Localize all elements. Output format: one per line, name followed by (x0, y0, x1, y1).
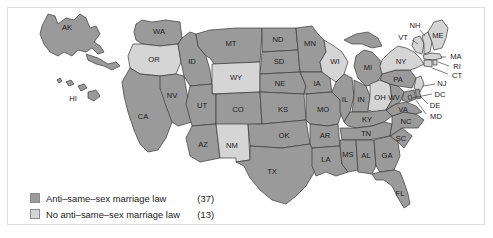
state-label-NV: NV (167, 91, 178, 100)
state-label-ID: ID (188, 57, 196, 66)
state-VT[interactable] (412, 36, 424, 54)
state-RI[interactable] (433, 60, 437, 65)
state-label-CO: CO (232, 105, 243, 114)
state-label-SD: SD (274, 57, 285, 66)
state-label-RI: RI (453, 62, 461, 71)
state-label-AL: AL (361, 151, 370, 160)
state-label-CT: CT (452, 71, 462, 80)
state-label-MO: MO (317, 105, 329, 114)
state-KS[interactable]: KS (260, 92, 306, 124)
state-label-LA: LA (321, 155, 331, 164)
state-label-VA: VA (398, 105, 409, 114)
state-label-NE: NE (275, 79, 286, 88)
state-label-TN: TN (361, 129, 371, 138)
state-CT[interactable] (424, 60, 432, 67)
state-MO[interactable]: MO (306, 92, 342, 126)
state-label-MI: MI (364, 63, 372, 72)
state-label-KY: KY (362, 115, 372, 124)
state-OK[interactable]: OK (248, 120, 310, 148)
state-label-OK: OK (279, 131, 290, 140)
state-label-AK: AK (62, 23, 72, 32)
state-AR[interactable]: AR (310, 124, 340, 148)
state-label-HI: HI (69, 94, 77, 103)
state-label-OR: OR (148, 55, 160, 64)
legend-item-no-anti[interactable]: No anti–same–sex marriage law (13) (30, 206, 214, 222)
state-AK[interactable]: AK (40, 14, 120, 70)
state-CO[interactable]: CO (216, 92, 262, 126)
state-ND[interactable]: ND (262, 28, 298, 52)
state-NE[interactable]: NE (260, 72, 306, 94)
legend-swatch-anti (30, 193, 40, 203)
state-label-NH: NH (410, 21, 421, 30)
state-label-AZ: AZ (198, 140, 208, 149)
state-label-NJ: NJ (437, 79, 446, 88)
state-DC[interactable] (408, 95, 412, 100)
state-label-SC: SC (396, 134, 407, 143)
state-label-WI: WI (330, 57, 339, 66)
legend-label-no-anti: No anti–same–sex marriage law (46, 209, 180, 220)
state-MA[interactable] (423, 53, 442, 60)
state-label-ND: ND (273, 35, 284, 44)
state-label-OH: OH (374, 93, 385, 102)
state-label-VT: VT (398, 33, 408, 42)
state-label-MN: MN (304, 39, 316, 48)
state-label-MT: MT (226, 39, 237, 48)
state-label-ME: ME (432, 31, 443, 40)
state-HI[interactable]: HI (57, 78, 100, 103)
state-label-IL: IL (342, 95, 348, 104)
state-AL[interactable]: AL (356, 140, 376, 174)
state-label-IN: IN (357, 95, 365, 104)
state-label-CA: CA (138, 112, 149, 121)
state-label-PA: PA (393, 75, 404, 84)
legend-label-anti: Anti–same–sex marriage law (46, 193, 166, 204)
state-label-FL: FL (396, 189, 405, 198)
legend-swatch-no-anti (30, 209, 40, 219)
legend-count-no-anti: (13) (189, 209, 214, 220)
state-label-TX: TX (267, 167, 277, 176)
state-label-UT: UT (197, 101, 207, 110)
state-NM[interactable]: NM (216, 124, 250, 162)
state-AZ[interactable]: AZ (186, 124, 220, 162)
state-label-GA: GA (382, 151, 394, 160)
state-label-NY: NY (396, 57, 407, 66)
legend-count-anti: (37) (189, 193, 214, 204)
state-label-KS: KS (278, 105, 288, 114)
state-FL[interactable]: FL (372, 170, 410, 208)
state-label-MD: MD (430, 112, 442, 121)
state-label-DE: DE (430, 101, 441, 110)
state-WY[interactable]: WY (212, 62, 260, 94)
state-UT[interactable]: UT (186, 84, 216, 126)
state-label-WA: WA (153, 27, 166, 36)
state-label-NC: NC (401, 117, 412, 126)
state-label-WY: WY (230, 73, 242, 82)
state-label-NM: NM (226, 141, 238, 150)
state-label-DC: DC (435, 90, 446, 99)
legend-item-anti[interactable]: Anti–same–sex marriage law (37) (30, 190, 214, 206)
state-label-IA: IA (313, 79, 321, 88)
figure-container: AK HI WA OR CA (0, 0, 493, 238)
state-label-MS: MS (342, 150, 353, 159)
legend: Anti–same–sex marriage law (37) No anti–… (30, 190, 214, 222)
state-label-MA: MA (450, 52, 462, 61)
state-SD[interactable]: SD (260, 50, 300, 74)
state-label-WV: WV (388, 93, 400, 102)
state-label-AR: AR (320, 131, 331, 140)
state-WA[interactable]: WA (134, 20, 182, 46)
